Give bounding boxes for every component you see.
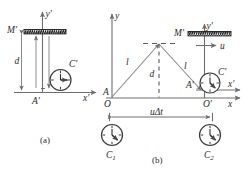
panel-b-point-a-label: A: [102, 87, 109, 97]
panel-b-moving-clock-label: C': [218, 67, 227, 77]
panel-b-caption: (b): [152, 155, 163, 165]
panel-b-y-axis-label: y: [114, 11, 120, 21]
panel-b-distance-label: d: [150, 69, 155, 79]
panel-a-clock-label: C': [69, 59, 78, 69]
panel-b-mirror-bar: [188, 32, 231, 36]
light-clock-diagram: y' x' M' d C' A' (a): [0, 0, 244, 172]
panel-b-clock-one: [102, 125, 123, 146]
panel-a-y-axis-label: y': [45, 9, 53, 19]
panel-b-x-axis-primed-label: x': [227, 79, 235, 89]
panel-a-origin-label: A': [31, 96, 41, 106]
panel-a-distance-label: d: [15, 56, 20, 66]
panel-b-clock-two: [200, 125, 221, 146]
panel-b-x-axis-label: x: [227, 99, 233, 109]
panel-b-mirror-label: M': [173, 28, 185, 38]
panel-a-clock: [50, 70, 71, 91]
panel-b-velocity-label: u: [220, 41, 225, 51]
panel-b-y-axis-primed-label: y': [206, 21, 214, 31]
panel-b-left-leg-label: l: [126, 57, 129, 67]
panel-a-mirror-label: M': [6, 25, 18, 35]
panel-b-origin-primed-label: O': [203, 99, 213, 109]
panel-b-origin-label: O: [104, 99, 111, 109]
panel-b-right-leg-label: l: [184, 61, 187, 71]
panel-b-moving-clock: [200, 73, 220, 93]
panel-b-point-a-primed-label: A': [185, 80, 195, 90]
physics-figure-container: y' x' M' d C' A' (a): [0, 0, 244, 172]
panel-a-x-axis-label: x': [82, 93, 90, 103]
panel-a-mirror-bar: [24, 30, 66, 34]
panel-a-caption: (a): [40, 135, 50, 145]
panel-b-displacement-label: uΔt: [150, 107, 163, 117]
